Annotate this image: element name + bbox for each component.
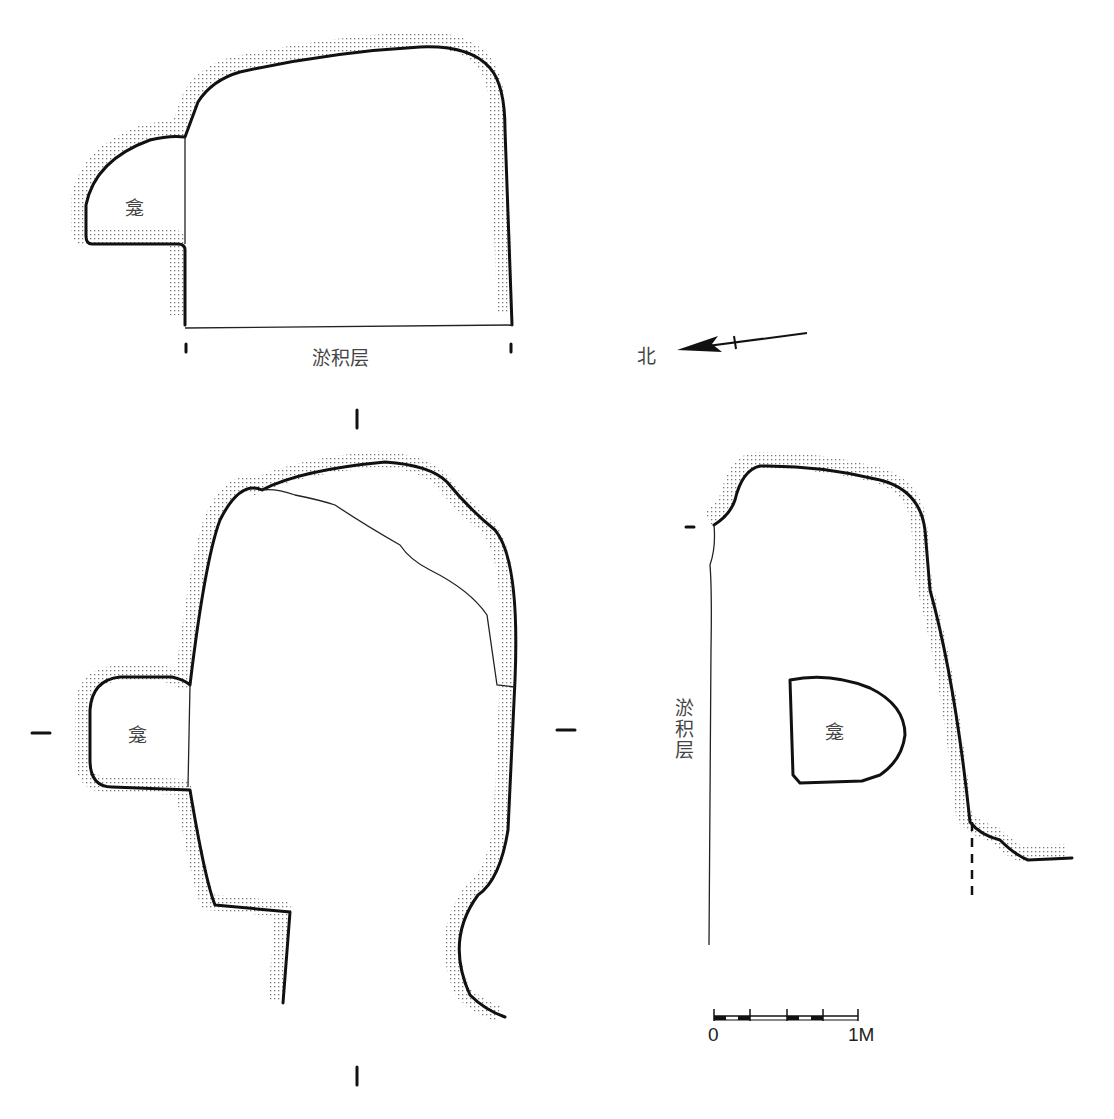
top-section-outline	[86, 47, 512, 325]
top-deposit-label: 淤积层	[312, 343, 369, 370]
north-label: 北	[637, 341, 656, 368]
scale-end-label: 1M	[848, 1024, 874, 1046]
side-deposit-label: 淤积层	[670, 698, 697, 761]
niche-outline	[790, 677, 905, 783]
side-section-outline	[714, 466, 1072, 860]
side-section-drawing	[686, 460, 1072, 945]
main-niche-label: 龛	[128, 720, 147, 747]
drawing-canvas	[0, 0, 1114, 1119]
scale-start-label: 0	[708, 1024, 719, 1046]
top-niche-label: 龛	[125, 193, 144, 220]
niche-divider-line	[188, 685, 190, 787]
deposit-line	[185, 325, 512, 328]
main-plan-drawing	[32, 410, 575, 1085]
scale-bar	[714, 1009, 858, 1021]
side-niche-label: 龛	[825, 717, 844, 744]
deposit-boundary-line	[709, 525, 715, 945]
north-arrow-icon	[677, 333, 807, 352]
